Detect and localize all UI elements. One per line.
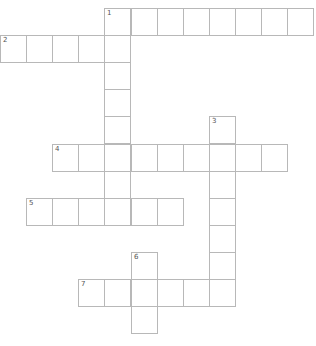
crossword-cell[interactable] (78, 198, 105, 226)
crossword-cell[interactable]: 4 (52, 144, 79, 172)
crossword-cell[interactable] (209, 171, 236, 199)
crossword-cell[interactable] (261, 8, 288, 36)
crossword-cell[interactable]: 2 (0, 35, 27, 63)
crossword-cell[interactable] (131, 198, 158, 226)
crossword-cell[interactable] (104, 171, 131, 199)
crossword-cell[interactable] (52, 198, 79, 226)
crossword-cell[interactable] (104, 279, 131, 307)
crossword-cell[interactable]: 5 (26, 198, 53, 226)
crossword-cell[interactable]: 6 (131, 252, 158, 280)
crossword-cell[interactable] (157, 8, 184, 36)
crossword-cell[interactable] (209, 8, 236, 36)
crossword-cell[interactable] (78, 144, 105, 172)
crossword-cell[interactable] (78, 35, 105, 63)
clue-number: 5 (29, 200, 33, 207)
crossword-cell[interactable]: 3 (209, 116, 236, 144)
clue-number: 3 (212, 118, 216, 125)
crossword-cell[interactable] (104, 62, 131, 90)
clue-number: 7 (81, 281, 85, 288)
clue-number: 1 (107, 10, 111, 17)
crossword-cell[interactable] (209, 198, 236, 226)
crossword-cell[interactable] (26, 35, 53, 63)
crossword-cell[interactable] (261, 144, 288, 172)
crossword-cell[interactable] (157, 279, 184, 307)
crossword-cell[interactable] (235, 144, 262, 172)
crossword-cell[interactable] (183, 279, 210, 307)
crossword-cell[interactable] (235, 8, 262, 36)
crossword-cell[interactable] (131, 306, 158, 334)
clue-number: 2 (3, 37, 7, 44)
crossword-cell[interactable]: 1 (104, 8, 131, 36)
crossword-cell[interactable] (209, 252, 236, 280)
crossword-cell[interactable]: 7 (78, 279, 105, 307)
crossword-grid: 1234567 (0, 0, 316, 346)
crossword-cell[interactable] (131, 279, 158, 307)
crossword-cell[interactable] (52, 35, 79, 63)
clue-number: 4 (55, 146, 59, 153)
crossword-cell[interactable] (183, 8, 210, 36)
clue-number: 6 (134, 254, 138, 261)
crossword-cell[interactable] (104, 89, 131, 117)
crossword-cell[interactable] (209, 279, 236, 307)
crossword-cell[interactable] (183, 144, 210, 172)
crossword-cell[interactable] (157, 198, 184, 226)
crossword-cell[interactable] (104, 144, 131, 172)
crossword-cell[interactable] (209, 225, 236, 253)
crossword-cell[interactable] (209, 144, 236, 172)
crossword-cell[interactable] (104, 198, 131, 226)
crossword-cell[interactable] (131, 8, 158, 36)
crossword-cell[interactable] (287, 8, 314, 36)
crossword-cell[interactable] (104, 35, 131, 63)
crossword-cell[interactable] (131, 144, 158, 172)
crossword-cell[interactable] (157, 144, 184, 172)
crossword-cell[interactable] (104, 116, 131, 144)
